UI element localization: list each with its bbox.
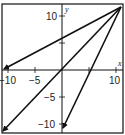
y-tick-label: −5 bbox=[44, 92, 56, 103]
x-tick-label: −10 bbox=[0, 75, 16, 86]
y-tick-label: 10 bbox=[46, 11, 58, 22]
x-axis-label: x bbox=[117, 59, 122, 68]
x-tick-label: 10 bbox=[109, 75, 121, 86]
x-tick-label: −5 bbox=[29, 75, 41, 86]
graph: −10 −5 10 10 −5 −10 x y bbox=[0, 0, 125, 135]
y-tick-label: −10 bbox=[38, 119, 55, 130]
y-axis-label: y bbox=[64, 5, 69, 14]
